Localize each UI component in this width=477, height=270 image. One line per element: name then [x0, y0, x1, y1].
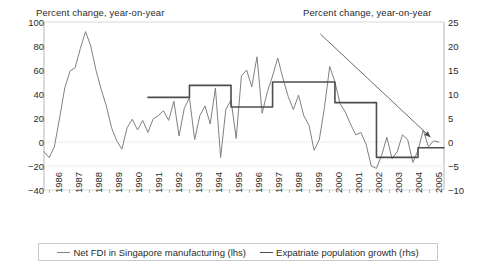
x-axis-tick-label: 2001 — [353, 172, 364, 193]
x-axis-tick-label: 1989 — [113, 172, 124, 193]
legend-label-expatriate: Expatriate population growth (rhs) — [276, 247, 419, 258]
right-axis-tick-label: 15 — [448, 65, 459, 76]
left-axis-tick-label: −40 — [28, 185, 44, 196]
x-axis-tick-label: 2004 — [413, 172, 424, 193]
legend-swatch-net-fdi — [57, 252, 70, 253]
left-axis-tick-label: 0 — [39, 137, 44, 148]
legend-label-net-fdi: Net FDI in Singapore manufacturing (lhs) — [73, 247, 246, 258]
x-axis-tick-label: 1999 — [313, 172, 324, 193]
x-axis-tick-label: 1997 — [273, 172, 284, 193]
x-axis-tick-label: 1994 — [213, 172, 224, 193]
x-axis-tick-label: 1990 — [133, 172, 144, 193]
chart-container: Percent change, year-on-year Percent cha… — [0, 0, 477, 270]
x-axis-tick-label: 1992 — [173, 172, 184, 193]
x-axis-tick-label: 2005 — [433, 172, 444, 193]
legend-item-expatriate: Expatriate population growth (rhs) — [260, 247, 419, 258]
downward-trend-arrow — [320, 34, 430, 137]
left-axis-title: Percent change, year-on-year — [36, 7, 164, 18]
series-line-net-fdi — [44, 32, 439, 169]
right-axis-tick-label: 0 — [448, 137, 453, 148]
x-axis-tick-label: 1986 — [53, 172, 64, 193]
right-axis-tick-label: 10 — [448, 89, 459, 100]
x-axis-tick-label: 1998 — [293, 172, 304, 193]
left-axis-tick-label: 40 — [33, 89, 44, 100]
left-axis-tick-label: 20 — [33, 113, 44, 124]
left-axis-tick-label: 60 — [33, 65, 44, 76]
left-axis-tick-label: 100 — [28, 17, 44, 28]
x-axis-tick-label: 1993 — [193, 172, 204, 193]
x-axis-tick-label: 1988 — [93, 172, 104, 193]
right-axis-tick-label: 5 — [448, 113, 453, 124]
right-axis-tick-label: −10 — [448, 185, 464, 196]
legend-item-net-fdi: Net FDI in Singapore manufacturing (lhs) — [57, 247, 246, 258]
right-axis-tick-label: 25 — [448, 17, 459, 28]
x-axis-tick-label: 2000 — [333, 172, 344, 193]
x-axis-tick-label: 1995 — [233, 172, 244, 193]
plot-area — [0, 0, 477, 270]
right-axis-tick-label: 20 — [448, 41, 459, 52]
x-axis-tick-label: 1996 — [253, 172, 264, 193]
left-axis-tick-label: 80 — [33, 41, 44, 52]
x-axis-tick-label: 2002 — [373, 172, 384, 193]
chart-legend: Net FDI in Singapore manufacturing (lhs)… — [38, 243, 438, 261]
legend-swatch-expatriate — [260, 252, 273, 253]
x-axis-tick-label: 2003 — [393, 172, 404, 193]
x-axis-tick-label: 1987 — [73, 172, 84, 193]
left-axis-tick-label: −20 — [28, 161, 44, 172]
right-axis-title: Percent change, year-on-year — [303, 7, 431, 18]
right-axis-tick-label: −5 — [448, 161, 459, 172]
x-axis-tick-label: 1991 — [153, 172, 164, 193]
